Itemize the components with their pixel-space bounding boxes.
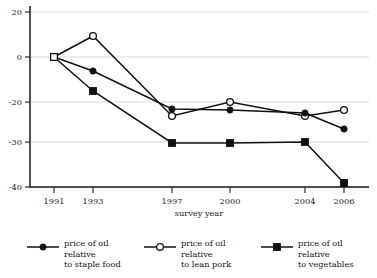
x-axis-tick-labels: 1991 1993 1997 2000 2004 2006 [44,196,355,206]
datapoint-lean-pork-1993 [90,33,97,40]
legend-label-vegetables: price of oil relative to vegetables [298,238,361,270]
xtick-label-1991: 1991 [44,196,65,206]
ytick-label-20: 20 [12,7,22,17]
legend-item-vegetables: price of oil relative to vegetables [260,238,361,278]
datapoint-vegetables-1997 [169,140,176,147]
axis-frame [30,6,369,187]
xtick-label-2006: 2006 [334,196,355,206]
xtick-label-1997: 1997 [162,196,183,206]
chart-figure: 20 0 -20 -30 -40 1991 1993 1997 2000 200… [0,0,377,278]
xtick-label-1993: 1993 [83,196,104,206]
legend-item-staple-food: price of oil relative to staple food [26,238,127,278]
ytick-label-0: 0 [17,52,22,62]
datapoint-lean-pork-1997 [169,113,176,120]
legend-marker-filled-circle-icon [26,241,60,253]
legend-marker-filled-square-icon [260,241,294,253]
xtick-label-2000: 2000 [220,196,241,206]
datapoint-vegetables-2004 [302,139,309,146]
ytick-label-neg40: -40 [9,182,22,192]
series-line-lean-pork [54,36,344,116]
datapoint-origin-1991 [51,54,58,61]
line-chart-plot: 20 0 -20 -30 -40 1991 1993 1997 2000 200… [0,0,377,278]
datapoint-lean-pork-2006 [341,107,348,114]
datapoint-staple-food-2000 [227,107,233,113]
x-axis-title: survey year [175,208,223,218]
x-axis-ticks [54,187,344,193]
legend-label-staple-food: price of oil relative to staple food [64,238,127,270]
datapoint-staple-food-2006 [341,126,347,132]
datapoint-vegetables-1993 [90,88,97,95]
series-line-vegetables [54,57,344,183]
series-vegetables [54,57,347,186]
legend-marker-open-circle-icon [143,241,177,253]
datapoint-staple-food-1993 [90,68,96,74]
datapoint-staple-food-2004 [302,110,308,116]
legend-label-lean-pork: price of oil relative to lean pork [181,238,244,270]
chart-legend: price of oil relative to staple food pri… [0,238,377,278]
xtick-label-2004: 2004 [295,196,316,206]
y-axis-tick-labels: 20 0 -20 -30 -40 [9,7,22,192]
gridlines [30,12,369,187]
series-lean-pork [54,33,347,120]
legend-item-lean-pork: price of oil relative to lean pork [143,238,244,278]
axis-lines [30,6,369,187]
datapoint-vegetables-2000 [227,140,234,147]
series-line-staple-food [54,57,344,129]
datapoint-staple-food-1997 [169,106,175,112]
ytick-label-neg20: -20 [9,97,22,107]
datapoint-vegetables-2006 [341,180,348,187]
ytick-label-neg30: -30 [9,137,22,147]
datapoint-lean-pork-2000 [227,99,234,106]
